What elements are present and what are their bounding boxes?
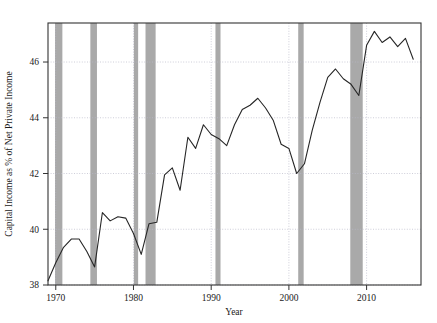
y-axis-tick-label: 46 bbox=[30, 57, 40, 67]
line-chart-svg: 19701980199020002010 3840424446 Year Cap… bbox=[0, 0, 437, 323]
x-axis-tick-label: 1980 bbox=[124, 293, 143, 303]
plot-background bbox=[48, 23, 421, 285]
x-axis-tick-label: 2010 bbox=[357, 293, 376, 303]
chart-figure: 19701980199020002010 3840424446 Year Cap… bbox=[0, 0, 437, 323]
y-axis-tick-label: 42 bbox=[30, 169, 40, 179]
y-axis-tick-group: 3840424446 bbox=[30, 57, 49, 290]
y-axis-tick-label: 40 bbox=[30, 225, 40, 235]
y-axis-tick-label: 38 bbox=[30, 280, 40, 290]
x-axis-title: Year bbox=[225, 307, 243, 317]
x-axis-tick-label: 2000 bbox=[279, 293, 298, 303]
x-axis-tick-label: 1970 bbox=[46, 293, 65, 303]
y-axis-title: Capital Income as % of Net Private Incom… bbox=[4, 71, 14, 236]
y-axis-tick-label: 44 bbox=[30, 113, 40, 123]
x-axis-tick-label: 1990 bbox=[202, 293, 221, 303]
x-axis-tick-group: 19701980199020002010 bbox=[46, 285, 376, 303]
recession-band bbox=[90, 23, 97, 285]
